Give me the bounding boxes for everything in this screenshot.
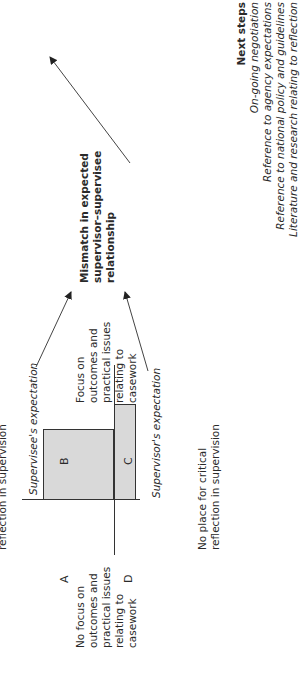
diagram-canvas: reflection in supervision A B C D Superv…	[0, 0, 301, 673]
arrow-supervisor-to-mismatch	[125, 292, 148, 371]
arrows-layer	[0, 0, 301, 673]
arrow-supervisee-to-mismatch	[36, 292, 71, 367]
arrow-mismatch-to-next-steps	[50, 57, 130, 163]
